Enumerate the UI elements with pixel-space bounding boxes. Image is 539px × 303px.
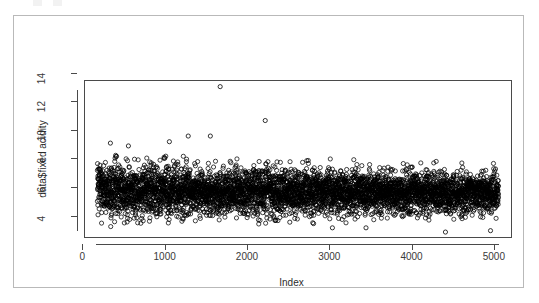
scatter-points-layer [85, 81, 511, 237]
x-tick-mark [494, 244, 495, 250]
x-tick-mark [329, 244, 330, 250]
x-tick-label: 2000 [236, 252, 258, 262]
y-axis-title-text: data$fixed acidity [37, 120, 48, 197]
x-tick-mark [247, 244, 248, 250]
x-tick-label: 0 [80, 252, 86, 262]
y-tick-mark [71, 73, 77, 74]
x-tick-label: 5000 [483, 252, 505, 262]
x-tick-label: 3000 [318, 252, 340, 262]
x-axis-title-text: Index [279, 277, 303, 288]
y-tick-label: 14 [37, 73, 47, 84]
y-tick-label: 12 [37, 101, 47, 112]
y-tick-mark [71, 101, 77, 102]
y-tick-mark [71, 187, 77, 188]
artifact-block-left [33, 0, 42, 6]
x-axis-title: Index [14, 277, 523, 288]
artifact-block-right [53, 0, 62, 6]
plot-panel [84, 80, 512, 238]
x-tick-label: 4000 [400, 252, 422, 262]
y-tick-label: 4 [37, 216, 47, 222]
y-axis-line [77, 90, 78, 231]
x-tick-mark [412, 244, 413, 250]
x-tick-mark [82, 244, 83, 250]
y-tick-mark [71, 130, 77, 131]
top-edge-artifact [33, 0, 79, 7]
figure-frame: 468101214 010002000300040005000 data$fix… [13, 15, 524, 288]
x-tick-label: 1000 [154, 252, 176, 262]
y-tick-mark [71, 158, 77, 159]
y-tick-mark [71, 216, 77, 217]
x-tick-mark [165, 244, 166, 250]
x-axis-line [96, 244, 499, 245]
